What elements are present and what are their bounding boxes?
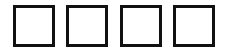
code-digit-2[interactable] [66, 5, 108, 47]
code-digit-1[interactable] [13, 5, 55, 47]
code-digit-3[interactable] [120, 5, 162, 47]
code-digit-4[interactable] [173, 5, 215, 47]
verification-code-input [0, 0, 228, 51]
